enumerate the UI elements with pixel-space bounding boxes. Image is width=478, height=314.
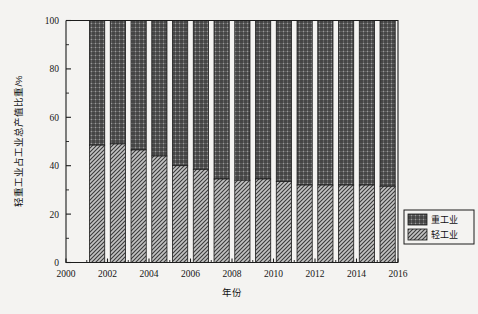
bar-segment-light-2006 — [193, 169, 208, 262]
x-axis-title: 年份 — [222, 287, 242, 298]
chart-container: 020406080100 200020022004200620082010201… — [0, 0, 478, 314]
bar-segment-light-2013 — [339, 185, 354, 262]
bar-segment-light-2014 — [359, 185, 374, 262]
bar-segment-heavy-2002 — [110, 21, 125, 144]
y-tick-label-60: 60 — [50, 113, 60, 123]
bar-segment-heavy-2001 — [90, 21, 105, 146]
bar-2012 — [318, 21, 333, 263]
x-tick-label-2010: 2010 — [264, 269, 283, 279]
bar-segment-light-2011 — [297, 185, 312, 262]
y-axis-title: 轻重工业占工业总产值比重/% — [13, 75, 24, 207]
bar-segment-heavy-2012 — [318, 21, 333, 186]
bar-segment-heavy-2011 — [297, 21, 312, 186]
bar-segment-heavy-2006 — [193, 21, 208, 170]
bar-2011 — [297, 21, 312, 263]
x-tick-label-2008: 2008 — [223, 269, 242, 279]
bar-2006 — [193, 21, 208, 263]
y-tick-label-0: 0 — [54, 258, 59, 268]
bar-segment-light-2004 — [152, 156, 167, 262]
bar-segment-heavy-2014 — [359, 21, 374, 186]
legend-label-light-industry: 轻工业 — [431, 229, 458, 240]
bar-segment-heavy-2004 — [152, 21, 167, 157]
bar-2009 — [256, 21, 271, 263]
bar-2005 — [173, 21, 188, 263]
x-tick-label-2012: 2012 — [306, 269, 325, 279]
bar-2002 — [110, 21, 125, 263]
x-tick-label-2006: 2006 — [181, 269, 200, 279]
y-tick-label-80: 80 — [50, 64, 60, 74]
bar-2003 — [131, 21, 146, 263]
bar-segment-light-2015 — [380, 186, 395, 262]
bar-2007 — [214, 21, 229, 263]
x-tick-label-2000: 2000 — [57, 269, 76, 279]
bar-segment-light-2007 — [214, 179, 229, 262]
bar-segment-heavy-2009 — [256, 21, 271, 180]
x-tick-label-2004: 2004 — [140, 269, 159, 279]
y-tick-label-100: 100 — [45, 16, 60, 26]
y-tick-label-40: 40 — [50, 161, 60, 171]
bar-2015 — [380, 21, 395, 263]
stacked-bar-chart: 020406080100 200020022004200620082010201… — [0, 0, 478, 314]
legend: 重工业 轻工业 — [404, 210, 474, 244]
bar-segment-heavy-2010 — [276, 21, 291, 182]
legend-label-heavy-industry: 重工业 — [431, 214, 458, 225]
bar-2004 — [152, 21, 167, 263]
bar-segment-light-2008 — [235, 180, 250, 262]
legend-swatch-heavy-industry — [408, 214, 427, 225]
bar-segment-light-2010 — [276, 181, 291, 262]
x-tick-label-2014: 2014 — [347, 269, 366, 279]
bars-group — [90, 21, 396, 263]
bar-segment-light-2009 — [256, 179, 271, 262]
y-tick-label-20: 20 — [50, 210, 60, 220]
x-tick-label-2016: 2016 — [389, 269, 408, 279]
bar-2010 — [276, 21, 291, 263]
bar-segment-heavy-2005 — [173, 21, 188, 166]
bar-segment-heavy-2007 — [214, 21, 229, 180]
bar-segment-light-2005 — [173, 166, 188, 263]
bar-2013 — [339, 21, 354, 263]
bar-segment-heavy-2003 — [131, 21, 146, 150]
bar-segment-light-2001 — [90, 145, 105, 262]
bar-segment-heavy-2015 — [380, 21, 395, 187]
bar-2001 — [90, 21, 105, 263]
bar-segment-heavy-2013 — [339, 21, 354, 186]
bar-2014 — [359, 21, 374, 263]
bar-segment-light-2003 — [131, 150, 146, 263]
bar-segment-light-2002 — [110, 144, 125, 263]
bar-segment-light-2012 — [318, 185, 333, 262]
legend-swatch-light-industry — [408, 229, 427, 240]
x-tick-label-2002: 2002 — [98, 269, 117, 279]
bar-2008 — [235, 21, 250, 263]
bar-segment-heavy-2008 — [235, 21, 250, 181]
